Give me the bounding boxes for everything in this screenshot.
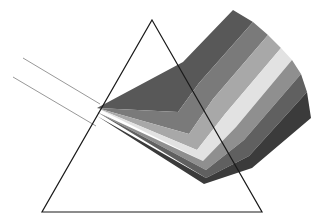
prism-dispersion-figure [0,0,318,219]
diagram-canvas [0,0,318,219]
